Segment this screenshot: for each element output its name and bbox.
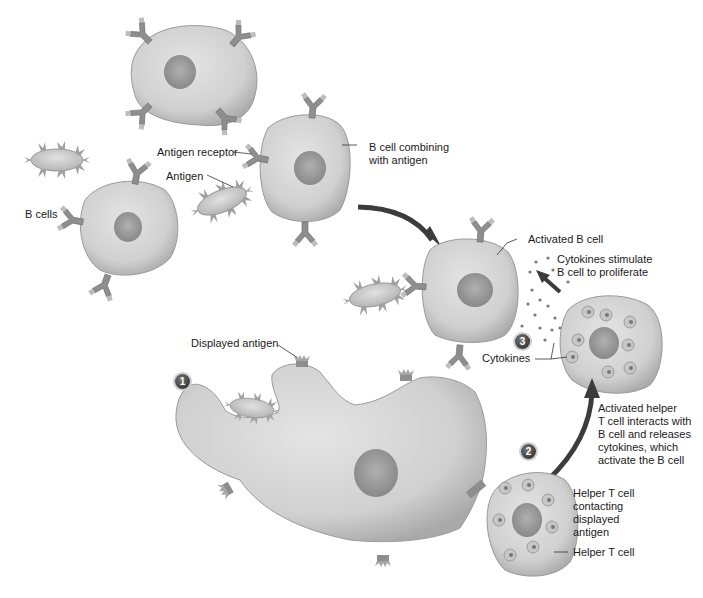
label-b-cell-combining: B cell combining with antigen bbox=[369, 141, 449, 167]
label-activated-b-cell: Activated B cell bbox=[528, 233, 603, 246]
step-badge-1: 1 bbox=[175, 374, 190, 389]
step-badge-3: 3 bbox=[515, 334, 530, 349]
label-activated-helper: Activated helper T cell interacts with B… bbox=[598, 402, 691, 467]
label-displayed-antigen: Displayed antigen bbox=[191, 337, 278, 350]
activated-helper-t-cell bbox=[560, 296, 662, 393]
label-antigen-receptor: Antigen receptor bbox=[157, 146, 238, 159]
b-cell-top bbox=[123, 15, 258, 137]
label-cytokines-stimulate: Cytokines stimulate B cell to proliferat… bbox=[557, 253, 652, 279]
helper-t-cell bbox=[487, 473, 578, 577]
label-helper-contacting: Helper T cell contacting displayed antig… bbox=[573, 487, 634, 539]
antigen-activated bbox=[339, 270, 411, 321]
activated-b-cell bbox=[400, 216, 518, 371]
label-b-cells: B cells bbox=[25, 208, 57, 221]
antigen-presenting-cell bbox=[176, 355, 487, 567]
b-cell-combining bbox=[241, 92, 350, 247]
label-antigen: Antigen bbox=[166, 170, 203, 183]
label-cytokines: Cytokines bbox=[482, 352, 530, 365]
step-badge-2: 2 bbox=[521, 444, 536, 459]
label-helper-t-cell: Helper T cell bbox=[573, 546, 634, 559]
b-cell-left bbox=[56, 157, 178, 303]
antigen-free bbox=[24, 141, 90, 179]
